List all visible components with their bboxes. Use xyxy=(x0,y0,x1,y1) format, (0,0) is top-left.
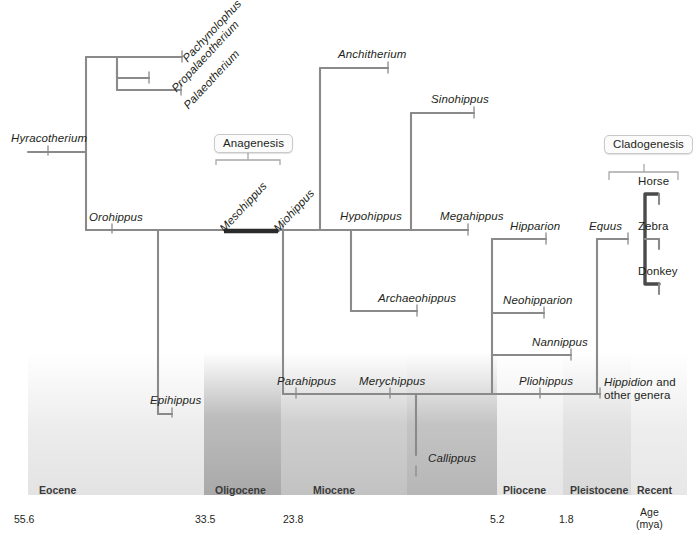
label-donkey: Donkey xyxy=(638,265,678,277)
age-tick-23-8: 23.8 xyxy=(283,513,303,525)
epoch-label-recent: Recent xyxy=(637,484,672,496)
label-hippidion: Hippidion and other genera xyxy=(604,376,692,401)
epoch-label-pleistocene: Pleistocene xyxy=(570,484,628,496)
label-orohippus: Orohippus xyxy=(89,211,143,223)
epoch-bands xyxy=(28,352,687,495)
age-tick-1-8: 1.8 xyxy=(559,513,574,525)
label-hypohippus: Hypohippus xyxy=(340,210,402,222)
equus-species-tips xyxy=(645,194,659,294)
label-anchitherium: Anchitherium xyxy=(338,48,406,60)
epoch-band-miocene-a xyxy=(281,352,407,495)
epoch-label-miocene: Miocene xyxy=(313,484,355,496)
label-merychippus: Merychippus xyxy=(359,375,425,387)
label-megahippus: Megahippus xyxy=(440,210,504,222)
label-hyracotherium: Hyracotherium xyxy=(11,132,87,144)
label-hipparion: Hipparion xyxy=(510,220,560,232)
label-pliohippus: Pliohippus xyxy=(519,375,573,387)
label-archaeohippus: Archaeohippus xyxy=(378,292,456,304)
label-hippidion-genus: Hippidion xyxy=(604,376,653,388)
epoch-band-recent xyxy=(631,352,687,495)
epoch-label-oligocene: Oligocene xyxy=(215,484,266,496)
label-neohipparion: Neohipparion xyxy=(503,294,573,306)
epoch-band-oligocene xyxy=(204,352,281,495)
age-tick-33-5: 33.5 xyxy=(195,513,215,525)
anagenesis-bracket-path xyxy=(216,160,280,165)
label-horse: Horse xyxy=(638,175,669,187)
age-tick-5-2: 5.2 xyxy=(490,513,505,525)
epoch-label-eocene: Eocene xyxy=(39,484,76,496)
axis-label-age-line1: Age xyxy=(636,506,663,518)
epoch-band-pliocene xyxy=(497,352,563,495)
label-callippus: Callippus xyxy=(428,452,476,464)
label-parahippus: Parahippus xyxy=(277,375,336,387)
epoch-band-eocene xyxy=(28,352,204,495)
age-tick-55-6: 55.6 xyxy=(14,513,34,525)
anagenesis-box[interactable]: Anagenesis xyxy=(214,134,293,153)
axis-label-age-line2: (mya) xyxy=(636,518,663,530)
label-epihippus: Epihippus xyxy=(150,394,201,406)
axis-label-age: Age (mya) xyxy=(636,506,663,530)
label-equus: Equus xyxy=(589,220,622,232)
epoch-label-pliocene: Pliocene xyxy=(503,484,546,496)
anagenesis-bracket xyxy=(216,152,280,165)
label-sinohippus: Sinohippus xyxy=(431,93,489,105)
epoch-band-miocene-b xyxy=(407,352,497,495)
cladogenesis-box[interactable]: Cladogenesis xyxy=(604,135,693,154)
label-zebra: Zebra xyxy=(638,220,669,232)
label-nannippus: Nannippus xyxy=(532,336,588,348)
